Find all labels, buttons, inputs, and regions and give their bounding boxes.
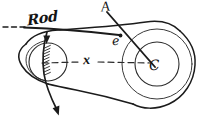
point-a-label: A	[100, 0, 110, 14]
left-pulley-hub	[29, 43, 67, 81]
crank-curve	[43, 32, 57, 110]
belt-right-wrap	[133, 31, 195, 108]
belt-lower-run	[48, 84, 133, 104]
crank-arrow-bottom	[53, 105, 60, 115]
centerline-left-segment	[42, 62, 80, 63]
dimension-x-label: x	[83, 53, 91, 67]
point-c-label: C	[148, 57, 160, 72]
figure-canvas: Rod A e C x	[0, 0, 204, 130]
point-e-label: e	[112, 35, 120, 48]
centerline-right-segment	[98, 62, 150, 63]
